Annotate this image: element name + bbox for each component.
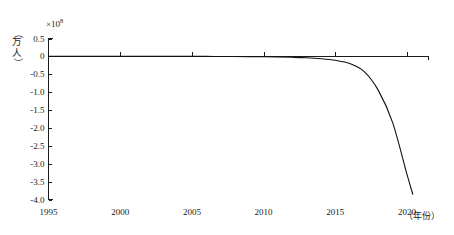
y-tick-label: -0.5 [11, 69, 45, 79]
x-axis-title: （年份） [404, 209, 440, 222]
y-tick-label: -1.5 [11, 105, 45, 115]
population-change-chart: （万人） ×108 0.50-0.5-1.0-1.5-2.0-2.5-3.0-3… [0, 0, 454, 235]
y-tick-label: -2.0 [11, 123, 45, 133]
y-multiplier-base: ×10 [46, 19, 60, 29]
y-axis-line [49, 39, 53, 200]
y-tick-label: -4.0 [11, 195, 45, 205]
y-tick-label: -3.5 [11, 177, 45, 187]
y-tick-label: -3.0 [11, 159, 45, 169]
y-tick-label: 0 [11, 51, 45, 61]
x-tick-label: 2005 [172, 207, 212, 217]
data-series-line [49, 56, 413, 194]
axis-group [49, 39, 429, 201]
y-multiplier-exponent: 8 [60, 17, 63, 24]
x-tick-label: 2010 [244, 207, 284, 217]
x-tick-label: 1995 [29, 207, 69, 217]
y-axis-multiplier: ×108 [46, 17, 63, 29]
y-tick-label: -2.5 [11, 141, 45, 151]
y-tick-label: -1.0 [11, 87, 45, 97]
x-tick-label: 2015 [315, 207, 355, 217]
y-axis-tick-marks [49, 39, 53, 200]
x-tick-label: 2000 [100, 207, 140, 217]
y-tick-label: 0.5 [11, 34, 45, 44]
chart-plot-area [0, 0, 454, 235]
series-group [49, 56, 413, 194]
